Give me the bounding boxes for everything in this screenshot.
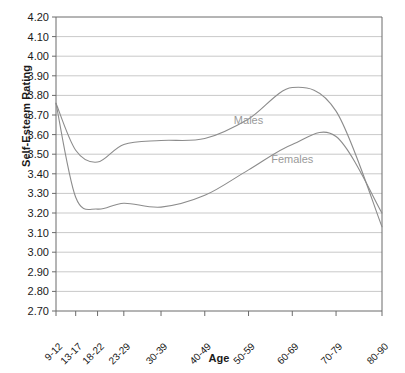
x-tick-label: 40-49 xyxy=(187,340,213,366)
plot-area: 4.204.104.003.903.803.703.603.503.403.30… xyxy=(0,0,405,373)
x-tick-label: 50-59 xyxy=(231,340,257,366)
x-tick-marks xyxy=(56,311,382,316)
gridlines xyxy=(56,37,382,292)
series-label-males: Males xyxy=(234,114,264,126)
y-tick-label: 3.30 xyxy=(28,187,49,199)
x-tick-labels: 9-1213-1718-2223-2930-3940-4950-5960-697… xyxy=(42,340,390,366)
y-tick-label: 3.70 xyxy=(28,109,49,121)
y-tick-label: 2.70 xyxy=(28,305,49,317)
y-tick-label: 3.00 xyxy=(28,246,49,258)
y-tick-label: 2.90 xyxy=(28,266,49,278)
y-tick-label: 3.80 xyxy=(28,89,49,101)
plot-frame xyxy=(56,17,382,311)
y-tick-labels: 4.204.104.003.903.803.703.603.503.403.30… xyxy=(28,11,49,317)
self-esteem-by-age-chart: Self-Esteem Rating Age 4.204.104.003.903… xyxy=(0,0,405,373)
y-tick-marks xyxy=(52,17,56,311)
x-tick-label: 30-39 xyxy=(144,340,170,366)
x-tick-label: 60-69 xyxy=(275,340,301,366)
y-tick-label: 3.60 xyxy=(28,129,49,141)
y-tick-label: 4.00 xyxy=(28,50,49,62)
y-tick-label: 3.10 xyxy=(28,227,49,239)
y-tick-label: 3.50 xyxy=(28,148,49,160)
x-tick-label: 70-79 xyxy=(319,340,345,366)
series-label-females: Females xyxy=(271,153,314,165)
y-tick-label: 3.20 xyxy=(28,207,49,219)
x-tick-label: 13-17 xyxy=(58,340,84,366)
y-tick-label: 3.90 xyxy=(28,70,49,82)
y-tick-label: 3.40 xyxy=(28,168,49,180)
y-tick-label: 4.10 xyxy=(28,31,49,43)
series-line-males xyxy=(56,87,382,226)
x-tick-label: 18-22 xyxy=(80,340,106,366)
x-tick-label: 80-90 xyxy=(365,340,391,366)
y-tick-label: 2.80 xyxy=(28,285,49,297)
y-tick-label: 4.20 xyxy=(28,11,49,23)
x-tick-label: 23-29 xyxy=(106,340,132,366)
series-lines xyxy=(56,87,382,226)
